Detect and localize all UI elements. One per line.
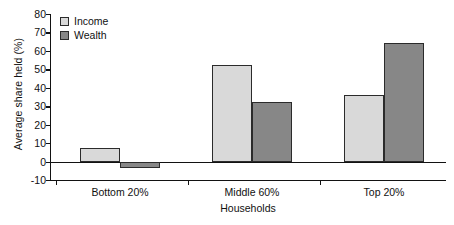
y-axis-tick-mark bbox=[46, 32, 50, 33]
legend-entry-income[interactable]: Income bbox=[60, 15, 108, 28]
legend-label: Wealth bbox=[74, 30, 107, 41]
y-axis-tick-label: 30 bbox=[18, 101, 46, 111]
y-axis-tick-mark bbox=[46, 143, 50, 144]
x-axis-category-label: Top 20% bbox=[339, 186, 429, 198]
y-axis-tick-label: 10 bbox=[18, 138, 46, 148]
x-axis-tick-mark bbox=[56, 180, 57, 185]
x-axis-category-label: Middle 60% bbox=[207, 186, 297, 198]
y-axis-tick-mark bbox=[46, 180, 50, 181]
y-axis-tick-label: -10 bbox=[18, 175, 46, 185]
bar-chart-figure: Average share held (%) 80706050403020100… bbox=[0, 0, 454, 225]
y-axis-tick-mark bbox=[46, 14, 50, 15]
y-axis-tick-label: 80 bbox=[18, 9, 46, 19]
bar-wealth-2 bbox=[384, 43, 424, 162]
bar-wealth-1 bbox=[252, 102, 292, 162]
y-axis-tick-mark bbox=[46, 88, 50, 89]
y-axis-tick-label: 0 bbox=[18, 157, 46, 167]
y-axis-tick-labels: 80706050403020100-10 bbox=[18, 14, 46, 180]
legend-entry-wealth[interactable]: Wealth bbox=[60, 29, 108, 42]
legend-swatch-icon bbox=[60, 31, 69, 40]
y-axis-tick-label: 20 bbox=[18, 120, 46, 130]
y-axis-line bbox=[50, 14, 51, 180]
y-axis-tick-mark bbox=[46, 106, 50, 107]
bar-wealth-0 bbox=[120, 162, 160, 168]
legend-swatch-icon bbox=[60, 17, 69, 26]
x-axis-tick-mark bbox=[320, 180, 321, 185]
y-axis-tick-label: 60 bbox=[18, 46, 46, 56]
x-axis-category-label: Bottom 20% bbox=[75, 186, 165, 198]
bar-income-1 bbox=[212, 65, 252, 162]
y-axis-tick-mark bbox=[46, 162, 50, 163]
y-axis-tick-label: 40 bbox=[18, 83, 46, 93]
bar-income-2 bbox=[344, 95, 384, 161]
legend: IncomeWealth bbox=[60, 15, 108, 43]
plot-area bbox=[50, 14, 446, 180]
zero-baseline bbox=[50, 162, 446, 163]
y-axis-tick-label: 70 bbox=[18, 27, 46, 37]
bar-income-0 bbox=[80, 148, 120, 162]
legend-label: Income bbox=[74, 16, 108, 27]
y-axis-tick-mark bbox=[46, 125, 50, 126]
y-axis-tick-mark bbox=[46, 51, 50, 52]
x-axis-tick-mark bbox=[188, 180, 189, 185]
x-axis-line bbox=[50, 180, 446, 181]
y-axis-tick-mark bbox=[46, 69, 50, 70]
x-axis-title: Households bbox=[188, 202, 308, 214]
y-axis-tick-label: 50 bbox=[18, 64, 46, 74]
